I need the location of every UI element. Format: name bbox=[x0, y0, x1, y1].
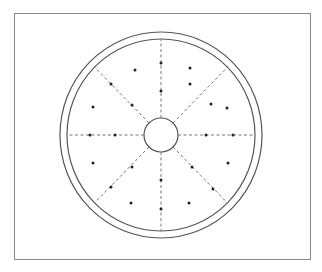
radial-line bbox=[173, 147, 227, 203]
dot-marker bbox=[189, 67, 192, 70]
dot-marker bbox=[160, 208, 163, 211]
center-hub bbox=[144, 118, 178, 152]
dot-marker bbox=[210, 103, 213, 106]
dot-marker bbox=[110, 186, 113, 189]
radial-line bbox=[173, 67, 227, 123]
circular-plan-diagram bbox=[0, 0, 322, 272]
radial-line bbox=[95, 67, 149, 123]
dot-marker bbox=[110, 83, 113, 86]
dot-marker bbox=[130, 202, 133, 205]
dot-marker bbox=[92, 106, 95, 109]
radial-line bbox=[95, 147, 149, 203]
dot-marker bbox=[188, 202, 191, 205]
dot-marker bbox=[191, 166, 194, 169]
dot-marker bbox=[160, 179, 163, 182]
dot-marker bbox=[89, 134, 92, 137]
dot-marker bbox=[160, 90, 163, 93]
dot-marker bbox=[131, 104, 134, 107]
dot-marker bbox=[232, 134, 235, 137]
dot-marker bbox=[189, 83, 192, 86]
dot-marker bbox=[131, 166, 134, 169]
dot-marker bbox=[205, 134, 208, 137]
dot-marker bbox=[92, 162, 95, 165]
dot-marker bbox=[212, 188, 215, 191]
dot-marker bbox=[226, 107, 229, 110]
dot-marker bbox=[160, 62, 163, 65]
dot-marker bbox=[114, 134, 117, 137]
dot-marker bbox=[227, 162, 230, 165]
dot-marker bbox=[134, 69, 137, 72]
